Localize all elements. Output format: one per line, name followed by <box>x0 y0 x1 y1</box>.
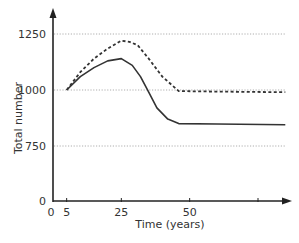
series <box>67 41 286 125</box>
y-tick-label: 0 <box>39 195 46 208</box>
y-tick-label: 750 <box>25 140 46 153</box>
y-tick-label: 1250 <box>18 28 46 41</box>
series-line-dashed <box>67 41 286 92</box>
axes <box>50 8 293 205</box>
x-tick-label: 5 <box>63 206 70 219</box>
y-axis-arrow-icon <box>50 8 57 18</box>
gridlines <box>54 34 285 146</box>
chart: 052550 075010001250 Time (years) Total n… <box>0 0 299 243</box>
x-axis-title: Time (years) <box>134 218 204 231</box>
x-axis-arrow-icon <box>282 198 292 205</box>
y-axis-title: Total number <box>12 81 25 155</box>
x-tick-label: 0 <box>48 206 55 219</box>
x-tick-label: 25 <box>114 206 128 219</box>
